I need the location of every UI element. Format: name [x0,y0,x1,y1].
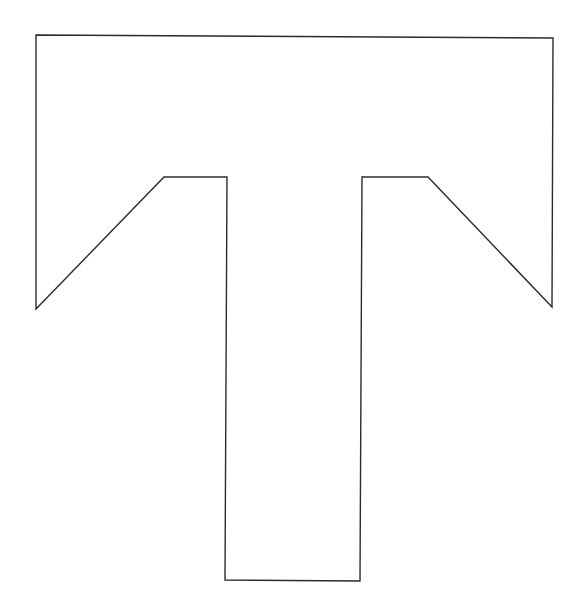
drawing-canvas [0,0,585,613]
letter-t-outline-shape [36,35,553,581]
letter-t-drawing [0,0,585,613]
